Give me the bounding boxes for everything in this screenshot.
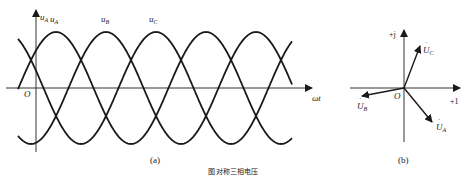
phasor-uc xyxy=(404,46,420,88)
origin-label: O xyxy=(24,89,31,99)
dot-Ua: · xyxy=(438,116,440,124)
phasor-panel: +j +1 O UC UB UA · · · (b) xyxy=(350,30,460,165)
waveform-panel: O ωt uA uA uB uC (a) xyxy=(6,10,321,165)
phasor-origin-label: O xyxy=(394,91,401,101)
dot-Uc: · xyxy=(425,39,427,47)
ylabel-u: uA xyxy=(40,12,49,23)
figure-caption: 图 对称三相电压 xyxy=(208,167,259,176)
label-ub: uB xyxy=(101,14,110,25)
label-uc: uC xyxy=(149,14,159,25)
three-phase-diagram: O ωt uA uA uB uC (a) +j +1 O UC UB UA · … xyxy=(0,0,467,176)
panel-a-label: (a) xyxy=(150,155,160,165)
real-axis-label: +1 xyxy=(450,97,459,106)
imag-axis-label: +j xyxy=(389,30,396,39)
dot-Ub: · xyxy=(359,95,361,103)
label-ua: uA xyxy=(50,14,59,25)
panel-b-label: (b) xyxy=(398,155,409,165)
phasor-ua xyxy=(404,88,432,122)
time-axis-label: ωt xyxy=(312,93,321,103)
